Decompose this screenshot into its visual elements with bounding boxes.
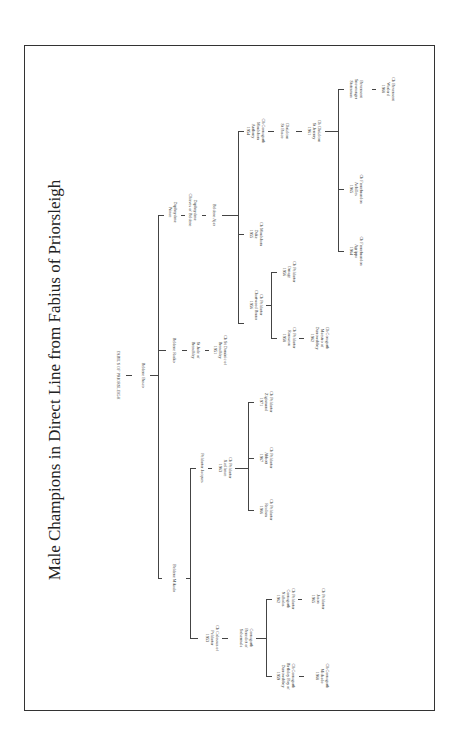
branch-line <box>271 272 272 338</box>
connector <box>181 215 185 216</box>
connector <box>296 131 302 132</box>
node-anthony: Ch Cornagarth Moulsham Anthony 1954 <box>246 119 266 144</box>
connector <box>238 323 244 324</box>
node-st-basco: Chrizlcon St Basco <box>280 123 290 140</box>
connector <box>230 215 238 216</box>
connector <box>202 215 206 216</box>
branch-line <box>190 468 191 638</box>
node-birthday-boy: Ch Cornagarth Birthday Boy of Durrowabbe… <box>276 662 296 689</box>
node-statesman: Bevensent Snowranger Statesman <box>349 79 364 99</box>
connector <box>266 599 272 600</box>
connector <box>256 638 266 639</box>
node-chartwood: Ch Peldartor Chartwood Bruno 1956 <box>249 290 264 320</box>
connector <box>150 375 158 376</box>
connector <box>325 131 338 132</box>
connector <box>271 338 277 339</box>
node-warlord: Ch Bevensent Warlord 1968 <box>381 77 396 100</box>
connector <box>338 189 344 190</box>
connector <box>222 638 228 639</box>
node-rasko: Beldene Rasko <box>172 337 177 362</box>
connector <box>238 234 244 235</box>
connector <box>248 458 254 459</box>
connector <box>271 272 277 273</box>
node-xcellence: Ch Peldartor Xcellence 1963 <box>218 457 233 478</box>
node-nicholas: Ch Peldartor Cornagarth Nicholas 1962 <box>276 588 296 609</box>
connector <box>158 578 162 579</box>
connector <box>248 510 254 511</box>
connector <box>299 676 304 677</box>
connector <box>126 375 132 376</box>
node-moulsham-duke: Ch Moulsham Duke 1955 <box>249 222 264 246</box>
node-realism: Ch Peldartor Realism 1966 <box>259 499 274 520</box>
connector <box>235 468 248 469</box>
node-maestro: Ch Coragarth Maestro of Durrowabbey 1962 <box>310 326 330 349</box>
connector <box>248 402 254 403</box>
node-jacques: Peldartor Jacques <box>200 453 205 482</box>
node-ajax: Beldene Ajax <box>212 204 217 227</box>
node-st-jeremy: Ch Chrizlcon St Jeremy 1961 <box>307 120 322 142</box>
connector <box>222 215 230 216</box>
node-busco: Beldene Busco <box>141 362 146 387</box>
node-rousseau: Ch Peldartor Rousseau 1958 <box>282 327 297 348</box>
node-agrippa: Ch Fernebrandon Agrippa 1964 <box>349 236 364 265</box>
connector <box>208 468 212 469</box>
connector <box>158 350 166 351</box>
connector <box>158 215 164 216</box>
connector <box>338 89 344 90</box>
connector <box>238 131 244 132</box>
node-jude: St Jude of Brenchley <box>191 341 201 358</box>
node-jason: Ch Peldartor Jason 1965 <box>311 588 326 609</box>
node-ornage: Ch Peldartor Ornage 1956 <box>282 261 297 282</box>
chart-title: Male Champions in Direct Line from Fabiu… <box>45 180 65 580</box>
connector <box>205 350 209 351</box>
node-mic-kado: Ch Cornagarth Mickado 1968 <box>315 664 330 689</box>
branch-line <box>238 131 239 323</box>
connector <box>190 638 198 639</box>
node-colossus: Ch Colossus of Peldartor 1953 <box>205 625 220 651</box>
node-benedict: Cornagarth Benedict of Solsermala <box>239 628 254 647</box>
node-fabius: FABIUS OF PRIORSLEIGH <box>116 350 121 399</box>
connector <box>298 599 302 600</box>
connector <box>268 131 274 132</box>
branch-line <box>266 599 267 676</box>
connector <box>266 676 272 677</box>
connector <box>372 89 376 90</box>
node-dp-chieves: Daphnydene Chieves of Beldene <box>188 194 198 227</box>
branch-line <box>338 89 339 251</box>
trunk-line <box>158 215 159 578</box>
node-dp-prince: Daphnydene Prince <box>168 201 178 222</box>
node-abbott: Ch Peldartor Abbott 1967 <box>259 447 274 468</box>
branch-line <box>248 402 249 510</box>
connector <box>182 350 187 351</box>
node-achilles: Ch Fernebrandon Achilles 1965 <box>349 174 364 203</box>
node-zigismund: Ch Peldartor Zigismund 1971 <box>259 391 274 412</box>
node-dominic: Ch St Dominic of Brenchley 1951 <box>213 335 228 365</box>
connector <box>299 338 304 339</box>
chart-frame <box>24 45 435 711</box>
node-mikado: Beldene Mikado <box>172 564 177 592</box>
connector <box>338 251 344 252</box>
connector <box>190 468 196 469</box>
connector <box>186 578 190 579</box>
